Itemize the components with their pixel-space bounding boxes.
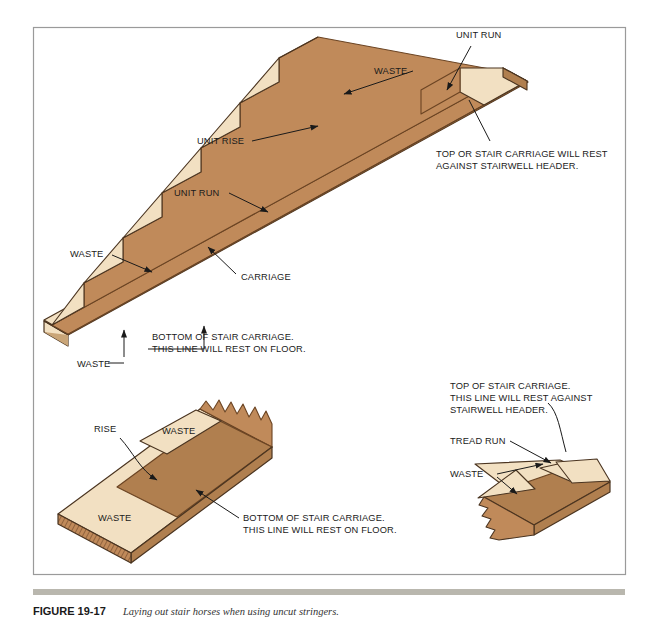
- label-rise: RISE: [94, 424, 116, 434]
- label-waste-bottom: WASTE: [77, 359, 110, 369]
- note-detail-left-line1: BOTTOM OF STAIR CARRIAGE.: [243, 513, 385, 523]
- note-top-line2: AGAINST STAIRWELL HEADER.: [436, 161, 578, 171]
- label-detail-right-waste: WASTE: [450, 469, 483, 479]
- label-tread-run: TREAD RUN: [450, 436, 506, 446]
- note-top-line1: TOP OR STAIR CARRIAGE WILL REST: [436, 149, 608, 159]
- note-detail-right-line1: TOP OF STAIR CARRIAGE.: [450, 381, 571, 391]
- label-detail-left-waste-lower: WASTE: [98, 513, 131, 523]
- label-detail-left-waste-upper: WASTE: [162, 426, 195, 436]
- label-unit-run-mid: UNIT RUN: [174, 188, 219, 198]
- caption-rule: [33, 589, 625, 595]
- caption-text: Laying out stair horses when using uncut…: [122, 606, 339, 617]
- label-waste-left: WASTE: [70, 249, 103, 259]
- note-detail-left-line2: THIS LINE WILL REST ON FLOOR.: [243, 525, 397, 535]
- label-unit-run-top: UNIT RUN: [456, 30, 501, 40]
- note-detail-right-line2: THIS LINE WILL REST AGAINST: [450, 393, 593, 403]
- label-waste-top: WASTE: [374, 66, 407, 76]
- note-bottom-line1: BOTTOM OF STAIR CARRIAGE.: [152, 332, 294, 342]
- label-carriage: CARRIAGE: [241, 272, 291, 282]
- note-bottom-line2: THIS LINE WILL REST ON FLOOR.: [152, 344, 306, 354]
- note-detail-right-line3: STAIRWELL HEADER.: [450, 405, 548, 415]
- label-unit-rise: UNIT RISE: [197, 136, 244, 146]
- caption-number: FIGURE 19-17: [33, 605, 106, 617]
- figure-root: UNIT RUN WASTE UNIT RISE UNIT RUN WASTE …: [0, 0, 659, 617]
